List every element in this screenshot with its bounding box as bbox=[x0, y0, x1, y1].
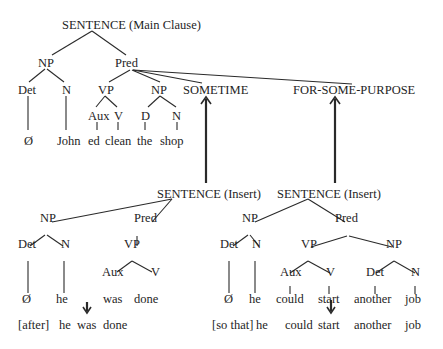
surface-word: done bbox=[103, 318, 128, 332]
surface-word: he bbox=[256, 318, 268, 332]
surface-word: he bbox=[59, 318, 71, 332]
node-v: V bbox=[151, 265, 160, 279]
node-np: NP bbox=[38, 56, 54, 70]
node-pred: Pred bbox=[115, 56, 139, 70]
node-aux: Aux bbox=[88, 109, 110, 123]
edge-vp-v bbox=[105, 96, 117, 107]
main-clause: SENTENCE (Main Clause) NP Pred Det N VP … bbox=[18, 18, 416, 148]
insert-arrows bbox=[201, 97, 340, 183]
node-root: SENTENCE (Main Clause) bbox=[62, 18, 201, 32]
node-det: Det bbox=[18, 237, 37, 251]
leaf: the bbox=[137, 134, 153, 148]
leaf: could bbox=[276, 292, 305, 306]
main-clause-edges bbox=[28, 31, 352, 130]
node-vp: VP bbox=[124, 237, 140, 251]
surface-word: start bbox=[318, 318, 340, 332]
node-n: N bbox=[252, 237, 261, 251]
leaf: shop bbox=[160, 134, 184, 148]
edge-pred-for-some-purpose bbox=[133, 70, 352, 84]
edge-root-pred bbox=[92, 31, 126, 55]
surface-word: was bbox=[77, 318, 97, 332]
insert-right: SENTENCE (Insert) NP Pred Det N VP NP Au… bbox=[212, 187, 421, 332]
node-v: V bbox=[326, 265, 335, 279]
surface-word: [after] bbox=[18, 318, 49, 332]
leaf: Ø bbox=[24, 134, 33, 148]
node-aux: Aux bbox=[102, 265, 124, 279]
node-n2: N bbox=[172, 109, 181, 123]
node-np: NP bbox=[242, 211, 258, 225]
leaf: start bbox=[318, 292, 340, 306]
node-n: N bbox=[61, 237, 70, 251]
leaf: ed bbox=[88, 134, 101, 148]
leaf: job bbox=[404, 292, 421, 306]
leaf: he bbox=[249, 292, 261, 306]
node-v: V bbox=[114, 109, 123, 123]
node-pred: Pred bbox=[134, 211, 158, 225]
node-root: SENTENCE (Insert) bbox=[157, 187, 261, 201]
node-n: N bbox=[62, 83, 71, 97]
node-n2: N bbox=[411, 265, 420, 279]
node-det2: Det bbox=[366, 265, 385, 279]
leaf: was bbox=[103, 292, 123, 306]
node-vp: VP bbox=[98, 83, 114, 97]
edge-vp-aux bbox=[96, 96, 105, 107]
node-pred: Pred bbox=[335, 211, 359, 225]
insert-left: SENTENCE (Insert) NP Pred Det N VP Aux V… bbox=[18, 187, 261, 332]
node-root: SENTENCE (Insert) bbox=[277, 187, 381, 201]
node-np2: NP bbox=[151, 83, 167, 97]
edge-vp-v bbox=[132, 261, 152, 272]
leaf: he bbox=[56, 292, 68, 306]
node-det: Det bbox=[220, 237, 239, 251]
edge-root-np bbox=[52, 31, 92, 55]
edge-np-det bbox=[29, 69, 45, 82]
node-for-some-purpose: FOR-SOME-PURPOSE bbox=[293, 83, 416, 97]
edge-pred-vp bbox=[109, 70, 130, 82]
node-np2: NP bbox=[386, 237, 402, 251]
edge-np2-d bbox=[148, 96, 160, 107]
node-np: NP bbox=[40, 211, 56, 225]
leaf: another bbox=[354, 292, 392, 306]
node-sometime: SOMETIME bbox=[183, 83, 249, 97]
surface-word: could bbox=[285, 318, 314, 332]
edge-np2-n bbox=[160, 96, 176, 107]
leaf: done bbox=[134, 292, 159, 306]
node-aux: Aux bbox=[280, 265, 302, 279]
node-vp: VP bbox=[301, 237, 317, 251]
surface-word: [so that] bbox=[212, 318, 253, 332]
edge-root-np bbox=[255, 199, 308, 222]
leaf: Ø bbox=[224, 292, 233, 306]
node-d: D bbox=[141, 109, 150, 123]
surface-word: job bbox=[404, 318, 421, 332]
leaf: Ø bbox=[22, 292, 31, 306]
leaf: clean bbox=[105, 134, 132, 148]
syntax-tree-diagram: SENTENCE (Main Clause) NP Pred Det N VP … bbox=[0, 0, 443, 349]
node-det: Det bbox=[18, 83, 37, 97]
surface-word: another bbox=[354, 318, 392, 332]
leaf: John bbox=[57, 134, 81, 148]
edge-np-n bbox=[47, 69, 64, 82]
